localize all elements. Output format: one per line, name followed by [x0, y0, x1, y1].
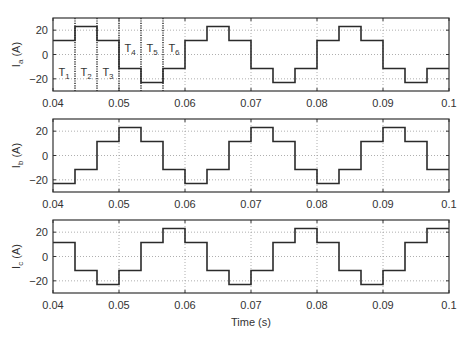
segment-label: T4	[124, 42, 136, 57]
three-phase-current-chart: 0.040.050.060.070.080.090.1200−20Ia (A)T…	[0, 0, 468, 342]
x-tick-label: 0.1	[441, 97, 456, 109]
y-tick-label: −20	[29, 73, 48, 85]
segment-label: T3	[102, 66, 114, 81]
y-axis-label: Ic (A)	[10, 244, 25, 269]
y-tick-label: 0	[42, 251, 48, 263]
y-tick-label: 0	[42, 150, 48, 162]
x-tick-label: 0.08	[306, 299, 327, 311]
y-axis-label: Ia (A)	[10, 42, 25, 67]
x-tick-label: 0.06	[174, 97, 195, 109]
x-tick-label: 0.07	[240, 198, 261, 210]
y-tick-label: 20	[36, 226, 48, 238]
x-tick-label: 0.08	[306, 97, 327, 109]
x-tick-label: 0.04	[42, 299, 63, 311]
x-tick-label: 0.1	[441, 299, 456, 311]
x-tick-label: 0.05	[108, 299, 129, 311]
y-tick-label: 20	[36, 24, 48, 36]
x-tick-label: 0.05	[108, 97, 129, 109]
x-tick-label: 0.09	[372, 299, 393, 311]
x-tick-label: 0.06	[174, 299, 195, 311]
panel-phase-c: 0.040.050.060.070.080.090.1200−20Ic (A)	[10, 220, 457, 311]
y-tick-label: 0	[42, 49, 48, 61]
x-tick-label: 0.07	[240, 299, 261, 311]
segment-label: T5	[146, 42, 158, 57]
segment-label: T2	[80, 66, 92, 81]
y-tick-label: −20	[29, 275, 48, 287]
x-tick-label: 0.09	[372, 97, 393, 109]
x-tick-label: 0.09	[372, 198, 393, 210]
segment-label: T1	[58, 66, 70, 81]
y-tick-label: 20	[36, 125, 48, 137]
panel-phase-a: 0.040.050.060.070.080.090.1200−20Ia (A)T…	[10, 18, 457, 109]
y-axis-label: Ib (A)	[10, 143, 25, 168]
x-tick-label: 0.1	[441, 198, 456, 210]
x-tick-label: 0.05	[108, 198, 129, 210]
x-tick-label: 0.04	[42, 97, 63, 109]
segment-label: T6	[168, 42, 180, 57]
panel-phase-b: 0.040.050.060.070.080.090.1200−20Ib (A)	[10, 119, 457, 210]
x-tick-label: 0.04	[42, 198, 63, 210]
x-tick-label: 0.08	[306, 198, 327, 210]
x-axis-label: Time (s)	[231, 316, 271, 328]
x-tick-label: 0.06	[174, 198, 195, 210]
y-tick-label: −20	[29, 174, 48, 186]
x-tick-label: 0.07	[240, 97, 261, 109]
